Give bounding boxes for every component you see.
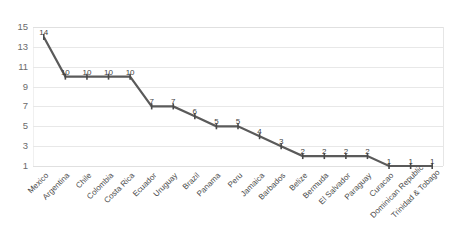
data-point-label: 10	[97, 68, 121, 77]
data-point-label: 1	[420, 157, 444, 166]
data-point-label: 7	[161, 97, 185, 106]
data-point-label: 2	[291, 147, 315, 156]
data-point-label: 4	[248, 127, 272, 136]
data-point-label: 3	[269, 137, 293, 146]
data-point-label: 10	[118, 68, 142, 77]
data-point-label: 7	[140, 97, 164, 106]
data-point-label: 10	[53, 68, 77, 77]
data-point-label: 6	[183, 107, 207, 116]
data-point-label: 2	[355, 147, 379, 156]
data-point-label: 5	[204, 117, 228, 126]
data-point-label: 5	[226, 117, 250, 126]
data-point-label: 2	[312, 147, 336, 156]
data-point-label: 1	[399, 157, 423, 166]
data-point-label: 2	[334, 147, 358, 156]
data-point-label: 10	[75, 68, 99, 77]
data-point-label: 1	[377, 157, 401, 166]
line-chart: 13579111315 MexicoArgentinaChileColombia…	[0, 0, 449, 252]
data-point-label: 14	[32, 28, 56, 37]
